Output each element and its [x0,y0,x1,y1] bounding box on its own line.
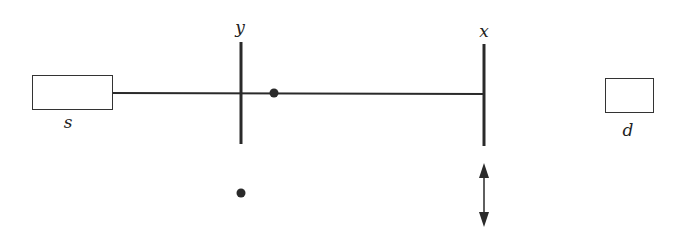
particle-dot-below [237,189,246,198]
label-s: s [64,112,73,132]
double-arrow-icon [479,163,489,227]
label-d: d [623,120,634,140]
detector-box [606,79,654,113]
diagram-canvas [0,0,689,235]
particle-dot-on-beam [270,89,279,98]
label-y: y [235,17,245,37]
label-x: x [479,21,489,41]
source-box [33,76,113,110]
beam-line [113,93,484,94]
